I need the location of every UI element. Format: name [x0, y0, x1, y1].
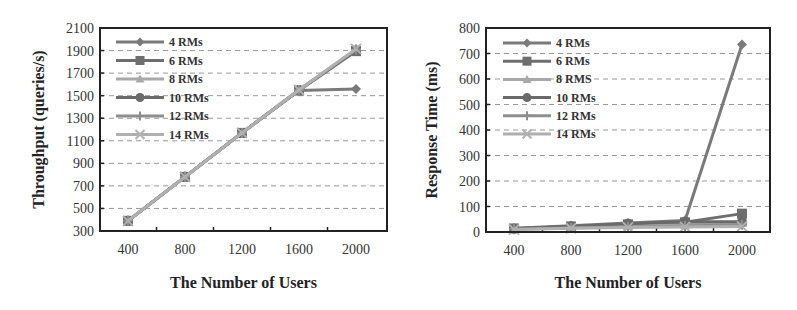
diamond-marker-icon — [351, 84, 361, 94]
legend-item: 12 RMs — [503, 109, 596, 123]
response-time-chart-svg: 0100200300400500600700800400800120016002… — [400, 0, 797, 310]
x-tick-label: 1600 — [285, 242, 313, 257]
y-tick-label: 300 — [73, 224, 94, 239]
series-lines — [509, 40, 747, 235]
response-time-chart: 0100200300400500600700800400800120016002… — [400, 0, 797, 310]
legend-item: 8 RMS — [503, 72, 592, 86]
x-tick-label: 1200 — [614, 243, 642, 258]
x-tick-label: 800 — [175, 242, 196, 257]
y-tick-label: 1500 — [66, 89, 94, 104]
legend-label: 6 RMs — [169, 54, 203, 68]
legend-label: 14 RMs — [556, 127, 596, 141]
y-axis-title: Throughput (queries/s) — [30, 50, 48, 208]
y-tick-label: 2100 — [66, 21, 94, 36]
x-tick-label: 2000 — [728, 243, 756, 258]
legend-item: 10 RMs — [503, 91, 596, 105]
diamond-marker-icon — [523, 39, 532, 48]
legend-label: 4 RMs — [169, 35, 203, 49]
y-tick-label: 0 — [473, 225, 480, 240]
circle-marker-icon — [523, 93, 532, 102]
legend-label: 10 RMs — [169, 91, 209, 105]
series-4-rms — [123, 84, 361, 226]
x-axis-title: The Number of Users — [555, 274, 702, 291]
x-tick-label: 400 — [504, 243, 525, 258]
diamond-marker-icon — [136, 38, 145, 47]
throughput-chart-svg: 3005007009001100130015001700190021004008… — [0, 0, 400, 310]
x-axis-title: The Number of Users — [170, 274, 317, 291]
square-marker-icon — [136, 56, 145, 65]
legend-label: 4 RMs — [556, 36, 590, 50]
plus-marker-icon — [136, 112, 145, 121]
x-tick-label: 2000 — [342, 242, 370, 257]
y-tick-label: 500 — [459, 98, 480, 113]
y-tick-label: 200 — [459, 174, 480, 189]
y-axis-title: Response Time (ms) — [423, 61, 441, 198]
y-axis-ticks: 300500700900110013001500170019002100 — [66, 21, 104, 239]
legend-item: 6 RMs — [503, 54, 590, 68]
y-tick-label: 1900 — [66, 44, 94, 59]
legend-label: 6 RMs — [556, 54, 590, 68]
y-tick-label: 700 — [73, 179, 94, 194]
y-tick-label: 1100 — [67, 134, 94, 149]
x-tick-label: 1600 — [671, 243, 699, 258]
legend-item: 8 RMs — [116, 72, 203, 86]
plus-marker-icon — [523, 111, 532, 120]
legend-item: 6 RMs — [116, 54, 203, 68]
y-tick-label: 1300 — [66, 111, 94, 126]
legend-item: 14 RMs — [503, 127, 596, 141]
throughput-chart: 3005007009001100130015001700190021004008… — [0, 0, 400, 310]
legend-item: 14 RMs — [116, 128, 209, 142]
legend-item: 4 RMs — [116, 35, 203, 49]
gridlines — [486, 54, 770, 207]
legend-item: 10 RMs — [116, 91, 209, 105]
legend-label: 14 RMs — [169, 128, 209, 142]
legend-item: 4 RMs — [503, 36, 590, 50]
x-tick-label: 800 — [561, 243, 582, 258]
y-tick-label: 100 — [459, 200, 480, 215]
y-tick-label: 900 — [73, 156, 94, 171]
x-tick-label: 1200 — [228, 242, 256, 257]
y-tick-label: 600 — [459, 72, 480, 87]
y-tick-label: 300 — [459, 149, 480, 164]
legend-label: 10 RMs — [556, 91, 596, 105]
legend: 4 RMs6 RMs8 RMS10 RMs12 RMs14 RMs — [503, 36, 596, 141]
legend-label: 12 RMs — [169, 109, 209, 123]
y-tick-label: 700 — [459, 47, 480, 62]
y-tick-label: 400 — [459, 123, 480, 138]
series-4-rms — [509, 40, 747, 234]
square-marker-icon — [523, 57, 532, 66]
y-tick-label: 800 — [459, 21, 480, 36]
y-tick-label: 1700 — [66, 66, 94, 81]
circle-marker-icon — [136, 93, 145, 102]
legend-label: 8 RMs — [169, 72, 203, 86]
diamond-marker-icon — [737, 40, 747, 50]
legend-label: 12 RMs — [556, 109, 596, 123]
y-tick-label: 500 — [73, 201, 94, 216]
legend-label: 8 RMS — [556, 72, 592, 86]
legend-item: 12 RMs — [116, 109, 209, 123]
x-tick-label: 400 — [118, 242, 139, 257]
